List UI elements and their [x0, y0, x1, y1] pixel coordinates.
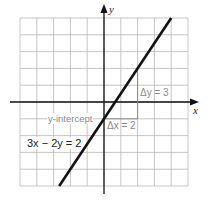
- coordinate-plane: [0, 0, 210, 206]
- x-axis-label: x: [193, 104, 198, 116]
- y-axis-arrow-icon: [101, 4, 108, 13]
- delta-y-label: Δy = 3: [140, 87, 169, 98]
- equation-label: 3x − 2y = 2: [26, 137, 82, 149]
- y-intercept-label: y-intercept: [47, 113, 93, 124]
- delta-x-label: Δx = 2: [107, 120, 136, 131]
- y-axis-label: y: [109, 3, 114, 15]
